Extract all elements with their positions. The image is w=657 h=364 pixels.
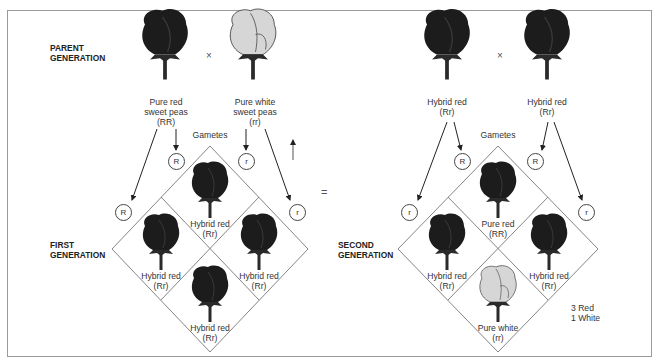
gamete-circle: r	[578, 204, 595, 221]
equals-symbol: =	[321, 186, 327, 198]
left-parent-flowers	[142, 9, 276, 79]
label-line: FIRST	[50, 240, 105, 250]
gametes-label: Gametes	[468, 130, 528, 140]
offspring-name: Pure white	[468, 323, 528, 333]
offspring-genotype: (Rr)	[180, 229, 240, 239]
offspring-name: Hybrid red	[229, 271, 289, 281]
offspring-name: Hybrid red	[180, 323, 240, 333]
parent1-label: Hybrid red (Rr)	[417, 97, 477, 117]
offspring-genotype: (Rr)	[131, 281, 191, 291]
ratio-white: 1 White	[571, 313, 600, 323]
offspring-genotype: (RR)	[468, 229, 528, 239]
label-line: GENERATION	[50, 250, 105, 260]
parent1-genotype: (Rr)	[417, 107, 477, 117]
offspring-label: Hybrid red (Rr)	[180, 323, 240, 343]
parent2-name: Hybrid red	[517, 97, 577, 107]
parent2-genotype: (rr)	[225, 117, 285, 127]
parent1-name-line: sweet peas	[136, 107, 196, 117]
offspring-label: Pure white (rr)	[468, 323, 528, 343]
offspring-name: Hybrid red	[180, 219, 240, 229]
offspring-genotype: (Rr)	[180, 333, 240, 343]
right-parent-flowers	[424, 9, 570, 79]
label-line: PARENT	[50, 43, 105, 53]
parent1-name-line: Pure red	[136, 97, 196, 107]
offspring-genotype: (Rr)	[229, 281, 289, 291]
label-line: SECOND	[338, 240, 393, 250]
parent1-name: Hybrid red	[417, 97, 477, 107]
label-line: GENERATION	[50, 53, 105, 63]
parent2-genotype: (Rr)	[517, 107, 577, 117]
first-generation-label: FIRST GENERATION	[50, 240, 105, 260]
offspring-label: Hybrid red (Rr)	[131, 271, 191, 291]
gamete-circle: R	[454, 153, 471, 170]
gamete-circle: R	[115, 204, 132, 221]
offspring-label: Hybrid red (Rr)	[417, 271, 477, 291]
parent1-genotype: (RR)	[136, 117, 196, 127]
gamete-circle: r	[289, 204, 306, 221]
offspring-name: Hybrid red	[519, 271, 579, 281]
offspring-name: Pure red	[468, 219, 528, 229]
offspring-name: Hybrid red	[417, 271, 477, 281]
offspring-label: Hybrid red (Rr)	[180, 219, 240, 239]
ratio-summary: 3 Red 1 White	[571, 303, 600, 323]
gamete-circle: R	[527, 153, 544, 170]
gamete-circle: r	[401, 204, 418, 221]
offspring-label: Hybrid red (Rr)	[519, 271, 579, 291]
offspring-genotype: (rr)	[468, 333, 528, 343]
parent2-name-line: sweet peas	[225, 107, 285, 117]
ratio-red: 3 Red	[571, 303, 600, 313]
offspring-genotype: (Rr)	[417, 281, 477, 291]
label-line: GENERATION	[338, 250, 393, 260]
gametes-label: Gametes	[180, 130, 240, 140]
offspring-label: Hybrid red (Rr)	[229, 271, 289, 291]
cross-symbol: ×	[206, 50, 212, 61]
parent1-label: Pure red sweet peas (RR)	[136, 97, 196, 127]
parent-generation-label: PARENT GENERATION	[50, 43, 105, 63]
gamete-circle: R	[168, 153, 185, 170]
offspring-genotype: (Rr)	[519, 281, 579, 291]
offspring-name: Hybrid red	[131, 271, 191, 281]
second-generation-label: SECOND GENERATION	[338, 240, 393, 260]
parent2-name-line: Pure white	[225, 97, 285, 107]
offspring-label: Pure red (RR)	[468, 219, 528, 239]
cross-symbol: ×	[497, 50, 503, 61]
gamete-circle: r	[238, 153, 255, 170]
parent2-label: Pure white sweet peas (rr)	[225, 97, 285, 127]
parent2-label: Hybrid red (Rr)	[517, 97, 577, 117]
